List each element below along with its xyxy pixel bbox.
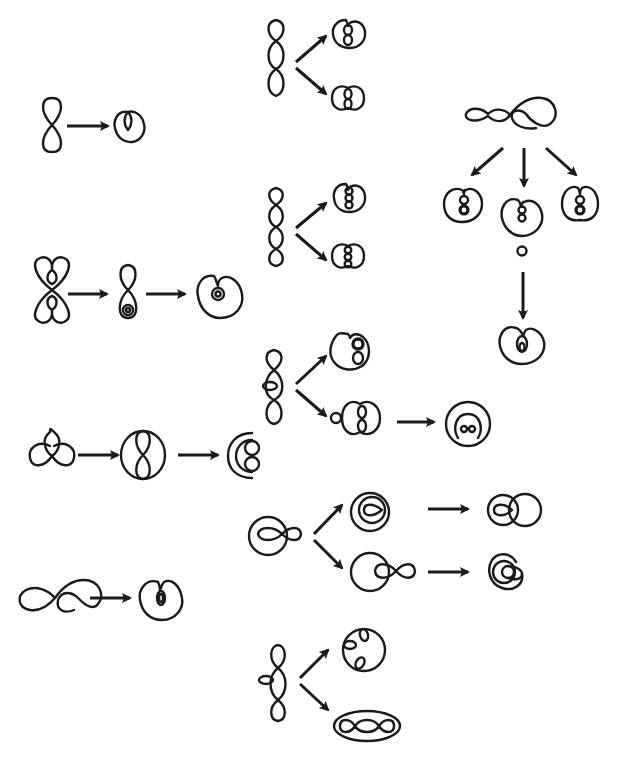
inner-loop: [358, 420, 366, 432]
inner-loop-small: [520, 343, 525, 351]
group-double-chain-side-loop: [259, 628, 400, 741]
bottom-tail-loop: [518, 247, 527, 256]
arrow-down-right: [296, 68, 326, 94]
figure-eight-curve: [43, 98, 61, 152]
curve-transformations-diagram: [0, 0, 629, 761]
inner-loop: [519, 215, 526, 222]
inner-loop-small: [216, 292, 221, 297]
small-loop-bottom: [245, 457, 259, 471]
arrow-down-right: [300, 684, 328, 710]
inner-loop: [344, 35, 352, 45]
inner-loop: [345, 261, 352, 268]
arrow-up-right: [300, 650, 328, 678]
small-loop: [469, 426, 475, 432]
triple-chain-curve: [269, 20, 284, 96]
group-triple-chain: [269, 20, 366, 110]
arrow-up-right: [296, 356, 326, 384]
inner-loop: [212, 288, 224, 300]
inner-loop-thick: [460, 206, 468, 214]
heart-circle-center: [502, 199, 543, 236]
crescent-inner: [236, 440, 252, 472]
inner-loop: [346, 202, 353, 209]
group-circle-figure-eight: [249, 493, 541, 591]
outer-ellipse: [334, 711, 400, 741]
heart-circle: [140, 581, 183, 620]
heart-circle-bottom: [500, 327, 545, 364]
inner-loop: [345, 254, 352, 261]
inner-loop: [353, 352, 363, 364]
inner-loop: [519, 207, 526, 214]
inner-loop: [123, 305, 133, 315]
group-chain-with-side-loop: [263, 333, 490, 446]
group-infinity-heart-chain: [444, 98, 598, 364]
inner-loop: [345, 89, 352, 99]
group-infinity-heart: [20, 580, 183, 620]
quadruple-chain-curve: [269, 188, 283, 266]
arrow-down-right: [546, 148, 576, 175]
infinity-chain-heart-curve: [466, 98, 556, 129]
arrow-down-right: [296, 390, 326, 416]
arrow-down-right: [296, 234, 326, 260]
figure-eight-right: [375, 564, 415, 578]
inner-loop: [460, 196, 468, 204]
group-trefoil: [30, 429, 259, 479]
inner-figure-eight: [136, 431, 150, 479]
small-loop: [461, 426, 467, 432]
group-quadruple-chain: [269, 184, 365, 268]
inner-triple-chain: [340, 720, 394, 732]
inner-loop-small: [159, 594, 163, 602]
inner-loop: [345, 247, 352, 254]
arrow-up-right: [296, 36, 326, 62]
tail-loop: [331, 413, 341, 423]
circle-with-inner-loop: [115, 112, 145, 143]
inner-loop-thick: [576, 206, 584, 214]
arrow-up-right: [314, 505, 342, 534]
arrow-down-left: [472, 148, 503, 175]
trefoil-curve: [30, 429, 75, 465]
inner-loop: [344, 641, 356, 649]
group-two-heart-loops: [35, 257, 242, 322]
double-heart-curve: [35, 257, 69, 322]
group-figure-eight: [43, 98, 144, 152]
diagram-canvas: [0, 0, 629, 761]
arrow-up-right: [296, 203, 326, 228]
outer-circle: [351, 493, 389, 531]
inner-loop-thick: [353, 339, 363, 349]
circle: [351, 553, 389, 591]
inner-loop: [576, 196, 584, 204]
chain-with-side-loop-curve: [266, 350, 283, 424]
outer-circle: [446, 402, 490, 446]
right-circle: [509, 494, 541, 526]
inner-loop: [358, 406, 366, 418]
small-loop-top: [245, 441, 259, 455]
double-circle: [332, 244, 364, 267]
inner-loop-small: [126, 308, 130, 312]
inner-loop: [364, 505, 382, 516]
infinity-heart-curve: [20, 580, 102, 612]
inner-loop: [354, 656, 367, 670]
arrow-down-right: [314, 540, 342, 568]
heart-circle: [330, 333, 369, 369]
innermost-circle: [502, 566, 514, 578]
figure-eight-tail: [258, 528, 301, 540]
inner-arc: [455, 414, 481, 438]
